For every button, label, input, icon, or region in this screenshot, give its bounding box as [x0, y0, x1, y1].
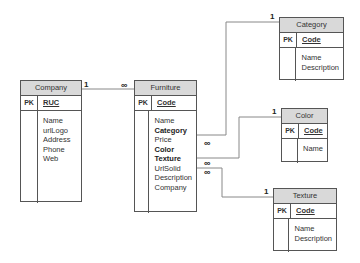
pk-label: PK [21, 96, 38, 110]
attribute: Address [43, 135, 71, 145]
primary-key: RUC [38, 96, 59, 110]
attribute: Web [43, 154, 71, 164]
attribute: Name [294, 224, 332, 234]
cardinality-one: 1 [264, 187, 268, 196]
cardinality-one: 1 [270, 12, 274, 21]
attribute: Price [154, 135, 192, 145]
attribute: Phone [43, 145, 71, 155]
attribute: Description [301, 63, 339, 73]
attribute: Name [301, 53, 339, 63]
entity-category[interactable]: Category PKCode Name Description [279, 17, 344, 80]
entity-furniture[interactable]: Furniture PKCode Name Category Price Col… [134, 80, 197, 212]
attribute: Description [154, 173, 192, 183]
category-furniture-link [197, 22, 279, 135]
attribute: Name [43, 116, 71, 126]
primary-key: Code [152, 96, 176, 110]
primary-key: Code [297, 33, 321, 47]
cardinality-many: ∞ [121, 80, 127, 90]
pk-label: PK [282, 124, 299, 138]
entity-color[interactable]: Color PKCode Name [281, 108, 328, 162]
foreign-key-attribute: Texture [154, 154, 192, 164]
entity-title: Texture [274, 189, 336, 204]
primary-key: Code [291, 204, 315, 218]
entity-title: Category [280, 18, 343, 33]
cardinality-one: 1 [272, 107, 276, 116]
entity-company[interactable]: Company PKRUC Name urlLogo Address Phone… [20, 80, 82, 202]
pk-label: PK [274, 204, 291, 218]
attribute: urlLogo [43, 126, 71, 136]
pk-label: PK [135, 96, 152, 110]
attribute: Description [294, 234, 332, 244]
primary-key: Code [299, 124, 323, 138]
pk-label: PK [280, 33, 297, 47]
attribute: UrlSolid [154, 164, 192, 174]
entity-texture[interactable]: Texture PKCode Name Description [273, 188, 337, 251]
foreign-key-attribute: Color [154, 145, 192, 155]
entity-title: Company [21, 81, 81, 96]
attribute: Name [303, 144, 323, 154]
cardinality-one: 1 [84, 80, 88, 89]
entity-title: Furniture [135, 81, 196, 96]
cardinality-many: ∞ [204, 138, 210, 148]
cardinality-many: ∞ [204, 167, 210, 177]
attribute: Name [154, 116, 192, 126]
foreign-key-attribute: Category [154, 126, 192, 136]
entity-title: Color [282, 109, 327, 124]
attribute: Company [154, 183, 192, 193]
